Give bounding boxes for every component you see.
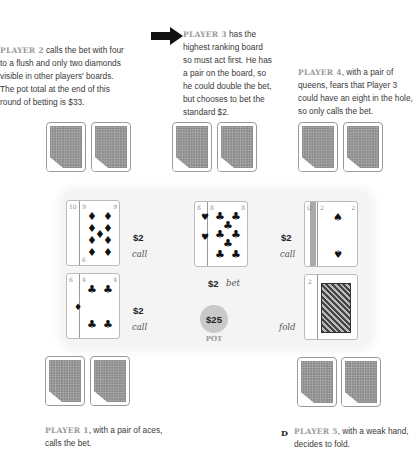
diamond-icon: ♦ — [74, 302, 82, 313]
player-2-amount: $2 — [133, 232, 144, 243]
player-3-label: PLAYER 3 — [183, 30, 227, 39]
player-2-caption: PLAYER 2 calls the bet with four to a fl… — [0, 44, 140, 109]
player-4-board: Q 2 2 ♠ ♠ — [304, 201, 358, 267]
diamond-icon: ♦ — [103, 247, 113, 258]
player-1-caption: PLAYER 1, with a pair of aces, calls the… — [45, 424, 175, 450]
player-1-hole-card-2 — [90, 356, 130, 406]
player-5-label: PLAYER 5 — [294, 427, 338, 436]
dealer-badge: D — [281, 428, 288, 438]
player-4-caption: PLAYER 4, with a pair of queens, fears t… — [298, 66, 417, 118]
player-1-hole-card-1 — [45, 356, 85, 406]
heart-icon: ♥ — [201, 232, 209, 243]
diamond-icon: ♦ — [103, 235, 113, 246]
player-2-action: call — [132, 249, 147, 259]
player-2-hole-card-1 — [46, 122, 86, 172]
player-2-board: 10 9 9 ♦ ♦ ♦ ♦ ♦ ♦ ♦ ♦ ♦ 6 — [66, 200, 120, 266]
turn-arrow-icon — [151, 27, 183, 45]
player-5-hole-card-1 — [297, 357, 337, 407]
player-3-hole-card-2 — [217, 122, 257, 172]
player-3-caption: PLAYER 3 has the highest ranking board s… — [183, 28, 293, 119]
player-4-action: call — [280, 249, 295, 259]
player-2-hole-card-2 — [91, 122, 131, 172]
player-5-caption: PLAYER 5, with a weak hand, decides to f… — [294, 425, 417, 451]
diamond-icon: ♦ — [87, 247, 97, 258]
player-1-action: call — [132, 322, 147, 332]
player-3-amount: $2 — [208, 278, 219, 289]
spade-icon: ♠ — [333, 212, 343, 223]
player-4-label: PLAYER 4 — [298, 68, 342, 77]
diamond-icon: ♦ — [87, 235, 97, 246]
player-3-action: bet — [226, 278, 240, 288]
pot-chip: $25 — [200, 305, 228, 333]
club-icon: ♣ — [103, 284, 113, 295]
player-5-action: fold — [279, 322, 295, 332]
diamond-icon: ♦ — [103, 211, 113, 222]
club-icon: ♣ — [231, 249, 241, 260]
pot-label: POT — [200, 334, 228, 343]
player-3-hole-card-1 — [172, 122, 212, 172]
player-1-label: PLAYER 1 — [45, 426, 89, 435]
player-5-hole-card-2 — [341, 357, 381, 407]
player-5-board: 2 — [304, 274, 358, 340]
spade-icon: ♠ — [333, 248, 343, 259]
club-icon: ♣ — [87, 284, 97, 295]
club-icon: ♣ — [87, 319, 97, 330]
player-4-hole-card-2 — [343, 122, 383, 172]
player-1-board: 6 4 4 ♣ ♣ ♣ ♣ ♦ — [66, 273, 120, 339]
club-icon: ♣ — [215, 249, 225, 260]
king-face-icon — [321, 283, 351, 333]
player-4-hole-card-1 — [298, 122, 338, 172]
player-3-board: 8 8 8 ♥ ♥ ♣ ♣ ♣ ♣ ♣ ♣ ♣ ♣ — [194, 201, 248, 267]
diamond-icon: ♦ — [87, 211, 97, 222]
diamond-icon: ♦ — [103, 223, 113, 234]
heart-icon: ♥ — [201, 212, 209, 223]
club-icon: ♣ — [103, 319, 113, 330]
player-2-label: PLAYER 2 — [0, 46, 44, 55]
player-1-amount: $2 — [133, 305, 144, 316]
player-4-amount: $2 — [281, 232, 292, 243]
